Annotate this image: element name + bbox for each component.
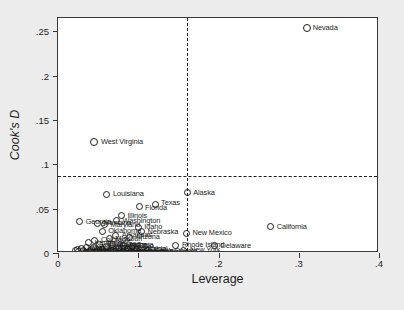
y-axis-tick-label: .2 [41, 70, 49, 81]
y-axis-tick [53, 76, 58, 77]
y-axis-tick [53, 120, 58, 121]
data-point-label: New Mexico [192, 230, 231, 237]
data-point-label: Nevada [313, 24, 338, 31]
x-axis-tick-label: .3 [295, 258, 303, 269]
y-axis-tick-label: .05 [36, 203, 49, 214]
data-point-marker [183, 230, 190, 237]
data-point-marker [303, 24, 311, 32]
x-axis-tick-label: .2 [215, 258, 223, 269]
y-axis-tick-label: 0 [44, 248, 49, 259]
reference-line-horizontal [58, 176, 377, 177]
y-axis-tick [53, 253, 58, 254]
data-point-marker [74, 246, 81, 251]
x-axis-tick-label: .4 [375, 258, 383, 269]
data-point-label: Louisiana [113, 191, 144, 198]
data-point-label: Alaska [193, 189, 215, 196]
y-axis-tick [53, 31, 58, 32]
x-axis-tick-label: 0 [55, 258, 60, 269]
data-point-label: Delaware [220, 242, 250, 249]
y-axis-tick [53, 164, 58, 165]
data-point-label: Florida [145, 204, 167, 211]
data-layer: NevadaWest VirginiaAlaskaLouisianaTexasF… [58, 18, 377, 251]
data-point-marker [90, 138, 98, 146]
y-axis-tick-label: .1 [41, 159, 49, 170]
y-axis-title: Cook's D [8, 17, 22, 252]
data-point-marker [136, 203, 143, 210]
data-point-marker [94, 220, 101, 227]
plot-area: NevadaWest VirginiaAlaskaLouisianaTexasF… [57, 17, 378, 252]
data-point-marker [184, 189, 191, 196]
y-axis-tick [53, 209, 58, 210]
data-point-marker [103, 191, 110, 198]
data-point-label: South Carolina [102, 249, 150, 251]
data-point-marker [92, 249, 99, 251]
reference-line-vertical [187, 18, 188, 251]
data-point-marker [99, 228, 106, 235]
data-point-label: California [277, 223, 307, 230]
data-point-label: West Virginia [101, 138, 143, 145]
y-axis-tick-label: .25 [36, 26, 49, 37]
x-axis-title: Leverage [57, 272, 378, 286]
y-axis-title-text: Cook's D [8, 109, 22, 159]
x-axis-tick-label: .1 [134, 258, 142, 269]
cooks-d-leverage-scatter-figure: Cook's D NevadaWest VirginiaAlaskaLouisi… [0, 0, 404, 310]
data-point-marker [76, 218, 83, 225]
data-point-marker [267, 223, 274, 230]
y-axis-tick-label: .15 [36, 114, 49, 125]
